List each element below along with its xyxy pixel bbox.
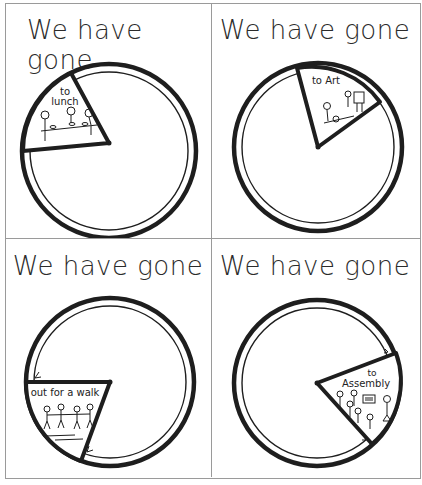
pie-clock-assembly: to Assembly — [212, 239, 418, 474]
segment-label-line2: Assembly — [342, 378, 390, 389]
card-art: We have gone to Art — [212, 3, 418, 238]
pie-clock-art: to Art — [212, 3, 418, 238]
card-lunch: We have gone to lunch — [5, 3, 211, 238]
segment-label: to Art — [312, 75, 340, 86]
card-walk: We have gone out for a walk — [5, 239, 211, 474]
segment-label: out for a walk — [31, 387, 100, 398]
segment-label-line1: to — [367, 368, 377, 378]
pie-clock-walk: out for a walk — [5, 239, 211, 474]
card-assembly: We have gone to Assembly — [212, 239, 418, 474]
segment-label-line2: lunch — [51, 96, 78, 107]
pie-clock-lunch: to lunch — [5, 3, 211, 238]
